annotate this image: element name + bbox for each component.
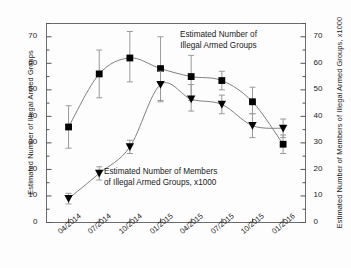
y-right-tick-0: 0 bbox=[314, 217, 318, 226]
y-right-tick-20: 20 bbox=[314, 164, 323, 173]
data-point-square bbox=[218, 77, 225, 84]
y-right-tick-10: 10 bbox=[314, 190, 323, 199]
y-right-tick-60: 60 bbox=[314, 58, 323, 67]
axes-frame bbox=[47, 24, 306, 223]
data-point-square bbox=[280, 141, 287, 148]
chart-figure: Estimated Number of Illegal Armed Groups… bbox=[0, 0, 351, 268]
data-point-square bbox=[65, 124, 72, 131]
members-annotation-line2: of Illegal Armed Groups, x1000 bbox=[104, 178, 217, 189]
groups-annotation-line1: Estimated Number of bbox=[180, 30, 257, 41]
y-left-tick-30: 30 bbox=[28, 137, 37, 146]
y-right-tick-50: 50 bbox=[314, 84, 323, 93]
data-point-triangle bbox=[248, 122, 256, 130]
y-left-tick-70: 70 bbox=[28, 31, 37, 40]
data-point-triangle bbox=[64, 195, 72, 203]
members-annotation: Estimated Number of Members of Illegal A… bbox=[104, 167, 217, 188]
data-point-square bbox=[249, 98, 256, 105]
groups-annotation-line2: Illegal Armed Groups bbox=[180, 41, 257, 52]
axis-ticks bbox=[47, 24, 306, 223]
y-left-tick-20: 20 bbox=[28, 164, 37, 173]
y-axis-right-title: Estimated Number of Members of Illegal A… bbox=[335, 13, 344, 233]
y-right-tick-40: 40 bbox=[314, 111, 323, 120]
plot-area bbox=[0, 0, 351, 268]
y-right-tick-30: 30 bbox=[314, 137, 323, 146]
y-right-tick-70: 70 bbox=[314, 31, 323, 40]
members-annotation-line1: Estimated Number of Members bbox=[104, 167, 217, 178]
y-left-tick-10: 10 bbox=[28, 190, 37, 199]
data-point-square bbox=[96, 71, 103, 78]
data-point-triangle bbox=[126, 143, 134, 151]
data-point-square bbox=[188, 73, 195, 80]
y-left-tick-60: 60 bbox=[28, 58, 37, 67]
data-point-square bbox=[126, 55, 133, 62]
y-left-tick-50: 50 bbox=[28, 84, 37, 93]
groups-annotation: Estimated Number of Illegal Armed Groups bbox=[180, 30, 257, 51]
data-point-triangle bbox=[218, 101, 226, 109]
y-left-tick-0: 0 bbox=[33, 217, 37, 226]
y-left-tick-40: 40 bbox=[28, 111, 37, 120]
